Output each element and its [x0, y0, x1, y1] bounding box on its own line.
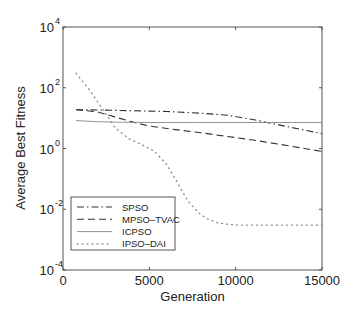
x-axis-label: Generation [160, 289, 224, 304]
y-tick-label: 10 [40, 202, 54, 217]
y-tick-exponent: -2 [55, 198, 63, 208]
x-tick-label: 15000 [304, 273, 340, 288]
y-tick-exponent: 2 [55, 77, 60, 87]
x-tick-label: 0 [59, 273, 66, 288]
x-tick-labels: 050001000015000 [59, 273, 340, 288]
legend-label: MPSO–TVAC [122, 214, 180, 225]
y-tick-exponent: 4 [55, 16, 60, 26]
y-axis-label: Average Best Fitness [13, 86, 28, 210]
y-tick-label: 10 [40, 263, 54, 278]
x-tick-label: 10000 [218, 273, 254, 288]
y-tick-exponent: 0 [55, 138, 60, 148]
legend-label: IPSO–DAI [122, 238, 166, 249]
y-tick-label: 10 [40, 81, 54, 96]
y-tick-labels: 10-410-2100102104 [40, 16, 63, 278]
line-chart: 050001000015000 10-410-2100102104 Genera… [0, 0, 357, 320]
legend-label: SPSO [122, 202, 148, 213]
y-tick-label: 10 [40, 20, 54, 35]
y-tick-label: 10 [40, 142, 54, 157]
x-tick-label: 5000 [135, 273, 164, 288]
y-tick-exponent: -4 [55, 259, 63, 269]
legend: SPSOMPSO–TVACICPSOIPSO–DAI [71, 197, 180, 250]
legend-label: ICPSO [122, 226, 152, 237]
